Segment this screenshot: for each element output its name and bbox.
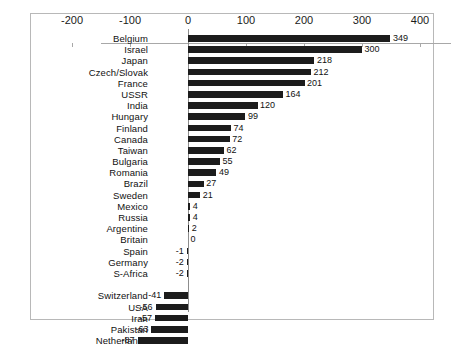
bar xyxy=(188,203,190,210)
chart-row: India120 xyxy=(0,100,443,111)
bar-value-label: 74 xyxy=(233,123,243,134)
category-label: India xyxy=(0,100,148,111)
x-tick-label: 0 xyxy=(158,14,218,27)
bar xyxy=(188,214,190,221)
category-label: Czech/Slovak xyxy=(0,67,148,78)
x-tick-label: 200 xyxy=(274,14,334,27)
bar xyxy=(151,326,188,333)
bar-value-label: 300 xyxy=(365,44,380,55)
x-tick-label: 100 xyxy=(216,14,276,27)
category-label: Germany xyxy=(0,257,148,268)
chart-row: S-Africa-2 xyxy=(0,268,443,279)
bar xyxy=(187,248,188,255)
bar-value-label: -1 xyxy=(135,246,184,257)
bar xyxy=(155,315,188,322)
chart-row: Sweden21 xyxy=(0,190,443,201)
bar xyxy=(188,169,216,176)
category-label: Romania xyxy=(0,167,148,178)
category-label: Britain xyxy=(0,234,148,245)
category-label: Mexico xyxy=(0,201,148,212)
category-label: Argentine xyxy=(0,223,148,234)
category-label: Hungary xyxy=(0,111,148,122)
bar-value-label: -2 xyxy=(135,268,184,279)
chart-row: Israel300 xyxy=(0,44,443,55)
chart-row: Pakistan-63 xyxy=(0,324,443,335)
x-axis: -200-1000100200300400 xyxy=(30,14,434,29)
bar-value-label: 218 xyxy=(317,55,332,66)
chart-row: Japan218 xyxy=(0,55,443,66)
category-label: S-Africa xyxy=(0,268,148,279)
category-label: Spain xyxy=(0,246,148,257)
chart-row: USA-56 xyxy=(0,302,443,313)
category-label: Finland xyxy=(0,123,148,134)
bar-value-label: -63 xyxy=(99,324,148,335)
chart-row: Switzerland-41 xyxy=(0,290,443,301)
bar xyxy=(187,259,188,266)
category-label: USSR xyxy=(0,89,148,100)
category-label: Sweden xyxy=(0,190,148,201)
x-tick-label: 300 xyxy=(332,14,392,27)
bar-value-label: 4 xyxy=(193,201,198,212)
category-label: Canada xyxy=(0,134,148,145)
x-tick-label: -100 xyxy=(100,14,160,27)
chart-row: Mexico4 xyxy=(0,201,443,212)
bar-value-label: 2 xyxy=(192,223,197,234)
category-label: Israel xyxy=(0,44,148,55)
bar xyxy=(138,337,188,344)
bar-value-label: 120 xyxy=(260,100,275,111)
bar-value-label: -2 xyxy=(135,257,184,268)
chart-row: France201 xyxy=(0,78,443,89)
category-label: Japan xyxy=(0,55,148,66)
bar-value-label: 27 xyxy=(206,178,216,189)
bar-value-label: 349 xyxy=(393,33,408,44)
bar xyxy=(188,125,231,132)
bar xyxy=(187,270,188,277)
bar xyxy=(188,46,362,53)
chart-row: Finland74 xyxy=(0,123,443,134)
chart-rows: Belgium349Israel300Japan218Czech/Slovak2… xyxy=(0,33,443,323)
bar-value-label: -41 xyxy=(112,290,161,301)
bar-value-label: 72 xyxy=(232,134,242,145)
bar-value-label: 0 xyxy=(191,234,196,245)
chart-row: Iran-57 xyxy=(0,313,443,324)
bar xyxy=(188,136,230,143)
bar xyxy=(188,69,311,76)
category-label: Brazil xyxy=(0,178,148,189)
x-tick-label: 400 xyxy=(390,14,450,27)
bar-value-label: 99 xyxy=(248,111,258,122)
bar xyxy=(188,158,220,165)
bar xyxy=(188,225,189,232)
bar-value-label: -87 xyxy=(86,335,135,346)
bar-value-label: 4 xyxy=(193,212,198,223)
bar-value-label: 212 xyxy=(313,67,328,78)
bar xyxy=(188,91,283,98)
chart-row: USSR164 xyxy=(0,89,443,100)
bar xyxy=(188,181,204,188)
bar xyxy=(164,292,188,299)
bar xyxy=(188,57,314,64)
chart-row: Argentine2 xyxy=(0,223,443,234)
bar xyxy=(188,80,305,87)
chart-row: Czech/Slovak212 xyxy=(0,67,443,78)
chart-row: Germany-2 xyxy=(0,257,443,268)
chart-row: Russia4 xyxy=(0,212,443,223)
category-label: Taiwan xyxy=(0,145,148,156)
bar xyxy=(188,147,224,154)
bar-value-label: 164 xyxy=(286,89,301,100)
group-separator xyxy=(0,279,443,290)
chart-row: Britain0 xyxy=(0,234,443,245)
bar xyxy=(188,113,245,120)
chart-row: Belgium349 xyxy=(0,33,443,44)
chart-row: Romania49 xyxy=(0,167,443,178)
chart-row: Hungary99 xyxy=(0,111,443,122)
bar xyxy=(188,192,200,199)
bar-value-label: 55 xyxy=(222,156,232,167)
bar xyxy=(188,35,390,42)
bar-value-label: 49 xyxy=(219,167,229,178)
chart-row: Canada72 xyxy=(0,134,443,145)
chart-row: Bulgaria55 xyxy=(0,156,443,167)
bar-value-label: 62 xyxy=(226,145,236,156)
chart-row: Spain-1 xyxy=(0,246,443,257)
bar-value-label: -56 xyxy=(104,302,153,313)
